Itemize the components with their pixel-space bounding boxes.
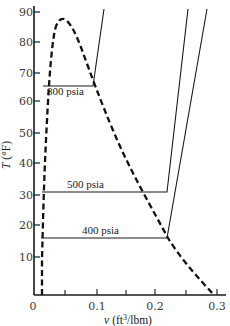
x-tick-labels: 0 0.1 0.2 0.3: [30, 300, 226, 313]
x-tick-0-2: 0.2: [146, 300, 164, 313]
y-tick-10: 10: [19, 251, 33, 264]
x-axis-title: v(ft3/lbm): [104, 313, 152, 326]
y-tick-80: 80: [19, 36, 33, 49]
y-tick-60: 60: [19, 95, 33, 108]
y-axis-title: T(°F): [0, 141, 13, 169]
x-tick-0: 0: [30, 300, 37, 313]
y-tick-30: 30: [19, 189, 33, 202]
y-tick-50: 50: [19, 127, 33, 140]
label-800-psia: 800 psia: [47, 85, 84, 97]
y-tick-40: 40: [19, 157, 33, 170]
isobar-400: [41, 9, 207, 238]
tv-diagram: 90 80 70 60 50 40 30 20 10 0 0.1 0.2 0.3…: [0, 0, 230, 326]
isobar-500: [42, 9, 188, 192]
label-500-psia: 500 psia: [67, 178, 104, 190]
y-tick-90: 90: [19, 6, 33, 19]
x-ticks: [65, 289, 217, 295]
y-ticks: [34, 12, 40, 257]
label-400-psia: 400 psia: [82, 224, 119, 236]
y-tick-labels: 90 80 70 60 50 40 30 20 10: [19, 6, 33, 264]
y-tick-70: 70: [19, 67, 33, 80]
x-tick-0-3: 0.3: [208, 300, 226, 313]
isobars: [41, 9, 207, 238]
axes: [34, 6, 226, 295]
y-tick-20: 20: [19, 219, 33, 232]
x-tick-0-1: 0.1: [88, 300, 106, 313]
saturation-dome: [42, 19, 214, 295]
